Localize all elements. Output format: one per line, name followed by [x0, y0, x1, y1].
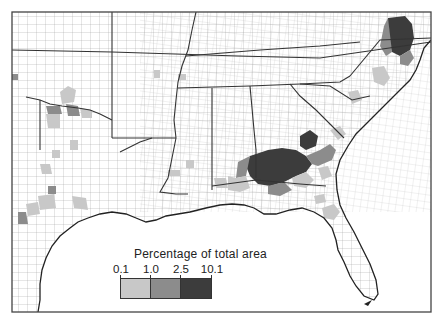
legend-tick: 1.0: [143, 263, 159, 275]
legend-tick: 2.5: [173, 263, 189, 275]
choropleth-map: [0, 0, 437, 325]
legend-title: Percentage of total area: [134, 247, 267, 261]
legend-tick: 0.1: [113, 263, 129, 275]
legend-swatch-medium: [150, 278, 181, 299]
legend-swatch-dark: [180, 278, 212, 299]
legend-tick: 10.1: [201, 263, 223, 275]
legend-swatch-light: [120, 278, 151, 299]
